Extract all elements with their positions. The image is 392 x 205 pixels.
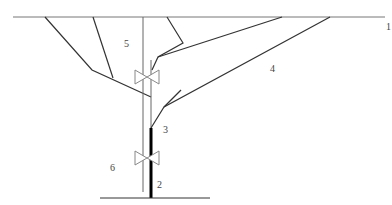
upper-valve-icon (135, 70, 159, 84)
label-5: 5 (124, 39, 129, 49)
label-3: 3 (163, 125, 168, 135)
upper-right-branch (152, 17, 183, 70)
upper-right-long-branch (158, 17, 282, 57)
label-4: 4 (270, 64, 275, 74)
label-2: 2 (157, 180, 162, 190)
lower-valve-icon (135, 151, 159, 165)
left-branch-inner (93, 17, 113, 78)
left-branch-outer (45, 17, 151, 97)
well-diagram (0, 0, 392, 205)
label-1: 1 (386, 22, 391, 32)
label-6: 6 (110, 163, 115, 173)
